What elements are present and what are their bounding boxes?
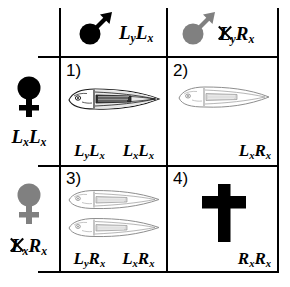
cell-genotype: LxRx — [122, 250, 154, 269]
grid-line-middle-vertical — [166, 8, 168, 273]
fish-larva-icon — [175, 82, 273, 112]
cell-genotypes: RxRx — [238, 250, 271, 269]
grid-line-top — [38, 56, 278, 58]
column-header-male-2: LyRx — [169, 2, 278, 54]
male-symbol-icon — [179, 8, 219, 48]
female-symbol-icon — [12, 182, 46, 226]
larva-illustration-group — [65, 84, 163, 114]
larva-illustration-group — [172, 82, 275, 112]
male-symbol-icon — [76, 8, 116, 48]
cell-genotypes: LyRx LxRx — [62, 250, 166, 269]
lethal-allele-strike: L — [11, 236, 23, 255]
cell-genotypes: LxRx — [239, 142, 271, 161]
grid-line-left — [59, 8, 61, 273]
row-header-genotype-2: LxRx — [11, 236, 47, 258]
cell-number-label: 1) — [66, 61, 81, 81]
cell-genotype: LxRx — [239, 141, 271, 160]
punnett-cell-1: 1) LyLx LxLx — [62, 60, 166, 164]
cross-symbol-icon — [196, 182, 252, 244]
female-symbol-icon — [12, 75, 46, 119]
punnett-cell-2: 2) LxRx — [169, 60, 278, 164]
column-header-male-1: LyLx — [62, 2, 166, 54]
lethal-allele-strike: L — [219, 24, 231, 43]
cell-genotype: LyRx — [74, 250, 106, 269]
cell-genotypes: LyLx LxLx — [62, 142, 166, 161]
punnett-square-figure: LyLx LyRx LxLx — [0, 0, 290, 287]
death-cross-group — [169, 182, 278, 244]
cell-genotype: LxLx — [123, 142, 154, 161]
fish-larva-icon — [65, 214, 163, 241]
row-header-female-2: LxRx — [0, 168, 58, 272]
row-header-genotype-1: LxLx — [12, 127, 47, 149]
larva-illustration-group — [65, 186, 163, 241]
fish-larva-icon — [65, 186, 163, 213]
column-header-genotype-1: LyLx — [119, 23, 153, 45]
row-header-female-1: LxLx — [0, 60, 58, 164]
punnett-cell-4: 4) RxRx — [169, 168, 278, 272]
grid-line-middle — [38, 165, 278, 167]
punnett-cell-3: 3) — [62, 168, 166, 272]
cell-genotype: RxRx — [238, 249, 271, 268]
cell-genotype: LyLx — [74, 142, 105, 161]
column-header-genotype-2: LyRx — [219, 24, 254, 46]
fish-larva-icon — [65, 84, 163, 114]
cell-number-label: 2) — [173, 61, 188, 81]
